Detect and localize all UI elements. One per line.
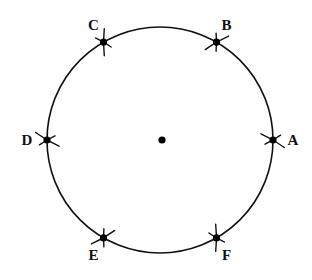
point-b (213, 39, 220, 46)
label-f: F (222, 247, 231, 263)
point-e (100, 234, 107, 241)
point-f (213, 234, 220, 241)
label-d: D (22, 132, 33, 148)
point-a (269, 136, 276, 143)
label-c: C (88, 17, 99, 33)
circle-diagram: ABCDEF (0, 0, 312, 280)
label-e: E (88, 247, 98, 263)
center-point (158, 136, 165, 143)
point-c (100, 39, 107, 46)
point-d (43, 136, 50, 143)
label-a: A (288, 132, 299, 148)
label-b: B (221, 17, 231, 33)
